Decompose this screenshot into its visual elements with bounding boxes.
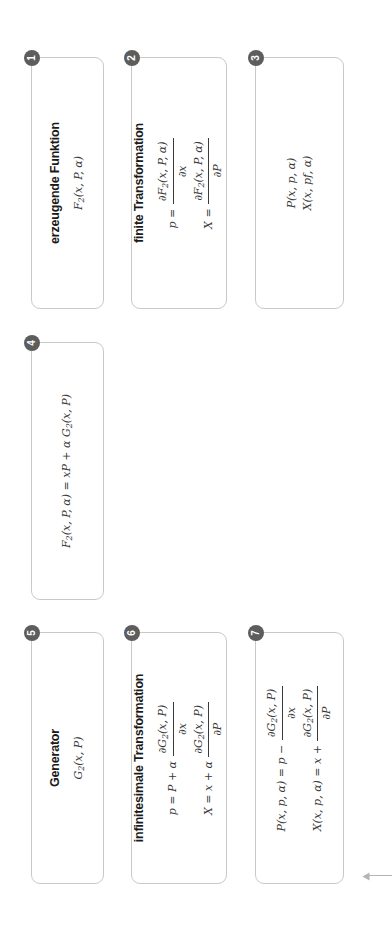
node-6-title: infinitesimale Transformation (132, 674, 146, 843)
node-5-equation: G2(x, P) (71, 737, 87, 780)
node-5-body: G2(x, P) (71, 737, 87, 780)
node-infinitesimale-transformation[interactable]: 6 infinitesimale Transformation p = P + … (131, 632, 227, 884)
badge-2: 2 (124, 50, 140, 66)
fraction-dG2-dP-res: ∂G2(x, P) ∂P (300, 686, 335, 741)
node-7-equation-X: X(x, p, α) = x + ∂G2(x, P) ∂P (300, 685, 335, 832)
fraction-dG2-dx-inf: ∂G2(x, P) ∂x (155, 702, 190, 757)
connector-4-to-5 (367, 875, 392, 876)
node-2-body: p = ∂F2(x, P, α) ∂x X = ∂F2(x, P, α) ∂P (155, 137, 226, 229)
node-1-body: F2(x, P, α) (71, 156, 87, 210)
node-3-line-2: X(x, pf, α) (300, 156, 316, 211)
node-infinitesimale-results[interactable]: 7 P(x, p, α) = p − ∂G2(x, P) ∂x X(x, p, … (255, 632, 344, 884)
node-erzeugende-funktion[interactable]: 1 erzeugende Funktion F2(x, P, α) (31, 57, 104, 309)
badge-7: 7 (248, 625, 264, 641)
node-f2-definition[interactable]: 4 F2(x, P, α) = xP + α G2(x, P) (31, 342, 104, 600)
node-finite-transformation[interactable]: 2 finite Transformation p = ∂F2(x, P, α)… (131, 57, 227, 309)
fraction-dF2-dP: ∂F2(x, P, α) ∂P (191, 138, 226, 204)
fraction-dF2-dx: ∂F2(x, P, α) ∂x (155, 139, 190, 205)
badge-4: 4 (24, 335, 40, 351)
fraction-dG2-dP-inf: ∂G2(x, P) ∂P (191, 702, 226, 757)
node-6-body: p = P + α ∂G2(x, P) ∂x X = x + α ∂G2(x, … (155, 701, 226, 816)
node-4-body: F2(x, P, α) = xP + α G2(x, P) (59, 394, 75, 548)
badge-6: 6 (124, 625, 140, 641)
node-6-equation-p: p = P + α ∂G2(x, P) ∂x (155, 701, 190, 816)
fraction-dG2-dx-res: ∂G2(x, P) ∂x (264, 686, 299, 741)
node-1-title: erzeugende Funktion (48, 122, 62, 244)
node-2-equation-p: p = ∂F2(x, P, α) ∂x (155, 137, 190, 229)
badge-3: 3 (248, 50, 264, 66)
node-6-equation-X: X = x + α ∂G2(x, P) ∂P (191, 701, 226, 816)
arrowhead-4-to-5 (363, 873, 370, 881)
node-2-equation-X: X = ∂F2(x, P, α) ∂P (191, 137, 226, 229)
node-7-body: P(x, p, α) = p − ∂G2(x, P) ∂x X(x, p, α)… (264, 685, 335, 832)
badge-1: 1 (24, 50, 40, 66)
node-3-body: P(x, p, α) X(x, pf, α) (284, 156, 316, 211)
node-finite-results[interactable]: 3 P(x, p, α) X(x, pf, α) (255, 57, 344, 309)
badge-5: 5 (24, 625, 40, 641)
node-generator[interactable]: 5 Generator G2(x, P) (31, 632, 104, 884)
node-4-equation: F2(x, P, α) = xP + α G2(x, P) (59, 394, 75, 548)
node-3-line-1: P(x, p, α) (284, 156, 300, 211)
node-7-equation-P: P(x, p, α) = p − ∂G2(x, P) ∂x (264, 685, 299, 832)
node-2-title: finite Transformation (132, 123, 146, 243)
node-1-equation: F2(x, P, α) (71, 156, 87, 210)
node-5-title: Generator (48, 729, 62, 787)
